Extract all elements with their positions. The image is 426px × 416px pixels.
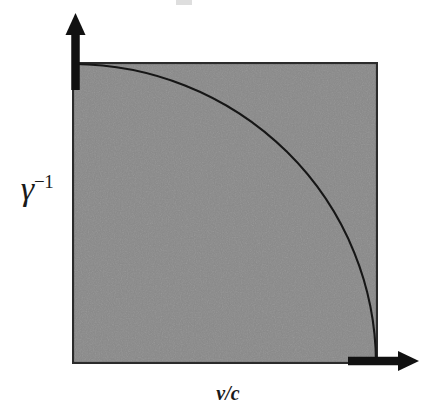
- y-axis-label: γ−1: [8, 172, 66, 206]
- plot-svg: [72, 62, 378, 364]
- x-axis-label: v/c: [178, 383, 278, 403]
- page-edge-artifact: [176, 0, 192, 5]
- y-axis-label-exponent: −1: [34, 171, 53, 192]
- y-axis-label-symbol: γ: [21, 170, 34, 207]
- figure-container: γ−1 v/c: [0, 0, 426, 416]
- plot-grain-overlay: [72, 62, 378, 364]
- plot-area: [72, 62, 378, 364]
